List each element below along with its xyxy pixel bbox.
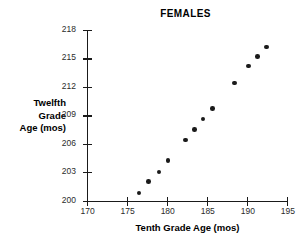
x-tick-label-185: 185	[201, 206, 215, 216]
y-axis-title-line-2: Grade	[2, 110, 66, 123]
data-point	[157, 170, 162, 175]
y-tick-label-203: 203	[62, 166, 76, 176]
y-tick-209: 209	[83, 115, 92, 116]
x-axis-title: Tenth Grade Age (mos)	[87, 222, 288, 233]
x-tick-label-175: 175	[121, 206, 135, 216]
y-tick-label-200: 200	[62, 195, 76, 205]
scatter-plot-figure: FEMALES Twelfth Grade Age (mos) Tenth Gr…	[0, 0, 307, 243]
x-tick-180: 180	[167, 197, 168, 206]
y-tick-218: 218	[83, 30, 92, 31]
x-tick-190: 190	[247, 197, 248, 206]
y-tick-label-212: 212	[62, 81, 76, 91]
y-tick-label-206: 206	[62, 138, 76, 148]
x-tick-195: 195	[287, 197, 288, 206]
x-tick-170: 170	[87, 197, 88, 206]
y-tick-206: 206	[83, 144, 92, 145]
data-point	[183, 138, 188, 143]
data-point	[246, 64, 251, 69]
x-tick-label-180: 180	[161, 206, 175, 216]
x-tick-175: 175	[127, 197, 128, 206]
data-point	[137, 191, 142, 196]
x-tick-label-190: 190	[241, 206, 255, 216]
data-point	[201, 117, 206, 122]
y-tick-203: 203	[83, 172, 92, 173]
y-tick-215: 215	[83, 58, 92, 59]
y-tick-label-218: 218	[62, 24, 76, 34]
x-axis-line	[87, 201, 288, 202]
data-point	[210, 106, 215, 111]
y-tick-label-215: 215	[62, 52, 76, 62]
data-point	[166, 158, 171, 163]
chart-title: FEMALES	[0, 8, 307, 19]
y-tick-212: 212	[83, 87, 92, 88]
data-point	[255, 54, 260, 59]
x-tick-label-170: 170	[81, 206, 95, 216]
x-tick-label-195: 195	[281, 206, 295, 216]
data-point	[232, 81, 237, 86]
y-tick-label-209: 209	[62, 109, 76, 119]
data-point	[146, 179, 151, 184]
y-axis-title: Twelfth Grade Age (mos)	[2, 97, 66, 135]
data-point	[264, 45, 269, 50]
data-point	[192, 127, 197, 132]
y-axis-title-line-3: Age (mos)	[2, 122, 66, 135]
x-tick-185: 185	[207, 197, 208, 206]
plot-area: 200203206209212215218 170175180185190195	[87, 30, 288, 202]
y-axis-title-line-1: Twelfth	[2, 97, 66, 110]
